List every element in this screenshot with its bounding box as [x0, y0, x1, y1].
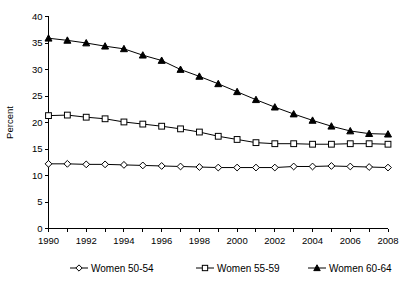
x-tick-label: 2004	[302, 235, 323, 246]
marker-square	[64, 112, 70, 118]
marker-triangle	[290, 111, 297, 117]
marker-square	[140, 121, 146, 127]
y-tick-label: 20	[32, 117, 43, 128]
marker-diamond	[328, 163, 335, 170]
marker-square	[234, 137, 240, 143]
y-axis: 0510152025303540Percent	[4, 11, 49, 234]
marker-square	[310, 141, 316, 147]
y-tick-label: 30	[32, 64, 43, 75]
x-tick-label: 1994	[113, 235, 134, 246]
legend-item-2: Women 55-59	[196, 263, 280, 274]
marker-square	[366, 141, 372, 147]
marker-diamond	[253, 164, 260, 171]
y-tick-label: 40	[32, 11, 43, 22]
marker-square	[215, 133, 221, 139]
marker-square	[121, 119, 127, 125]
marker-square	[385, 141, 391, 147]
marker-diamond	[158, 163, 165, 170]
marker-diamond	[76, 265, 82, 271]
marker-diamond	[64, 160, 71, 167]
legend-label: Women 55-59	[217, 263, 280, 274]
x-tick-label: 1992	[76, 235, 97, 246]
legend-label: Women 50-54	[91, 263, 154, 274]
marker-triangle	[234, 88, 241, 94]
x-tick-label: 2006	[340, 235, 361, 246]
marker-square	[46, 113, 52, 119]
x-tick-label: 2002	[264, 235, 285, 246]
y-tick-label: 35	[32, 37, 43, 48]
marker-square	[347, 141, 353, 147]
marker-square	[272, 141, 278, 147]
marker-square	[83, 114, 89, 120]
marker-square	[329, 141, 335, 147]
legend-label: Women 60-64	[329, 263, 392, 274]
marker-triangle	[196, 73, 203, 79]
marker-square	[159, 123, 165, 129]
marker-diamond	[177, 163, 184, 170]
marker-square	[291, 141, 297, 147]
marker-diamond	[121, 162, 128, 169]
chart-container: 0510152025303540Percent 1990199219941996…	[0, 0, 410, 285]
marker-diamond	[385, 164, 392, 171]
marker-diamond	[271, 164, 278, 171]
marker-diamond	[45, 160, 52, 167]
marker-triangle	[271, 104, 278, 110]
marker-triangle	[177, 66, 184, 72]
data-series-group	[45, 35, 392, 171]
marker-diamond	[215, 164, 222, 171]
marker-diamond	[102, 161, 109, 168]
marker-square	[202, 265, 207, 270]
marker-square	[102, 116, 108, 122]
x-tick-label: 2008	[377, 235, 398, 246]
marker-square	[178, 126, 184, 132]
y-tick-label: 10	[32, 170, 43, 181]
marker-square	[196, 129, 202, 135]
x-tick-label: 1998	[189, 235, 210, 246]
series-2	[46, 112, 391, 147]
legend-item-1: Women 50-54	[70, 263, 154, 274]
x-tick-label: 2000	[227, 235, 248, 246]
x-tick-label: 1990	[38, 235, 59, 246]
x-tick-label: 1996	[151, 235, 172, 246]
legend-item-3: Women 60-64	[308, 263, 392, 274]
marker-diamond	[347, 163, 354, 170]
marker-diamond	[290, 163, 297, 170]
line-chart: 0510152025303540Percent 1990199219941996…	[0, 0, 410, 285]
y-tick-label: 25	[32, 90, 43, 101]
series-1	[45, 160, 391, 171]
series-line	[49, 115, 389, 144]
y-tick-label: 5	[37, 196, 42, 207]
series-3	[45, 35, 392, 137]
marker-diamond	[366, 164, 373, 171]
marker-diamond	[234, 164, 241, 171]
chart-legend: Women 50-54Women 55-59Women 60-64	[70, 263, 392, 274]
marker-square	[253, 140, 259, 146]
marker-diamond	[309, 163, 316, 170]
y-tick-label: 0	[37, 223, 42, 234]
marker-diamond	[83, 161, 90, 168]
marker-triangle	[215, 80, 222, 86]
marker-diamond	[139, 162, 146, 169]
x-axis: 1990199219941996199820002002200420062008	[38, 229, 399, 246]
y-axis-title: Percent	[4, 106, 15, 139]
marker-diamond	[196, 164, 203, 171]
marker-triangle	[45, 35, 52, 41]
marker-triangle	[252, 96, 259, 102]
y-tick-label: 15	[32, 143, 43, 154]
